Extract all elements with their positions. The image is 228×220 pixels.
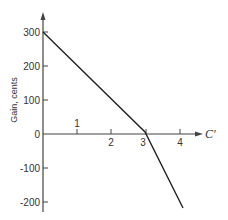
y-axis-arrow-icon: [41, 12, 46, 20]
y-tick-0: 0: [34, 129, 40, 140]
gain-chart: C' 300 200 100 0 -100 -200 1 2 3 4 Gain,…: [0, 0, 228, 220]
x-tick-4: 4: [177, 137, 183, 148]
y-axis-label: Gain, cents: [9, 77, 19, 123]
x-tick-1: 1: [74, 118, 80, 129]
x-axis-label: C': [205, 127, 216, 141]
x-axis-arrow-icon: [195, 132, 203, 137]
y-tick-300: 300: [23, 27, 40, 38]
gain-line: [43, 32, 183, 208]
x-tick-2: 2: [108, 137, 114, 148]
x-tick-3: 3: [140, 137, 146, 148]
y-tick-100: 100: [23, 95, 40, 106]
y-tick-200: 200: [23, 61, 40, 72]
y-tick-minus-100: -100: [20, 163, 40, 174]
y-tick-minus-200: -200: [20, 197, 40, 208]
